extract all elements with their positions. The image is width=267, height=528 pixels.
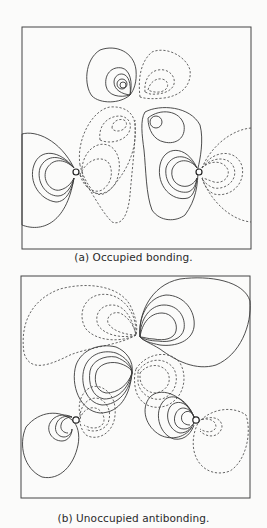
- positive-contours-top: [87, 48, 136, 102]
- negative-contours-top: [139, 50, 190, 98]
- positive-contours-top-right: [140, 278, 250, 367]
- panel-a: (a) Occupied bonding.: [0, 0, 267, 265]
- contours-bottom-right-atom: [145, 392, 248, 473]
- negative-contours-middle-left: [78, 107, 135, 223]
- nucleus-right: [196, 169, 202, 175]
- contour-plot-b: [0, 265, 267, 528]
- panel-b: (b) Unoccupied antibonding.: [0, 265, 267, 528]
- positive-contours-center: [74, 346, 132, 413]
- plot-frame: [22, 27, 251, 249]
- caption-b: (b) Unoccupied antibonding.: [0, 512, 267, 524]
- nucleus-right: [193, 417, 199, 423]
- negative-contours-right-atom: [202, 128, 251, 222]
- negative-contours-center-right: [135, 354, 185, 407]
- positive-contours-right-atom: [142, 108, 202, 220]
- negative-contours-top-left: [23, 286, 137, 366]
- contour-plot-a: [0, 0, 267, 265]
- positive-contours-left-atom: [22, 133, 74, 227]
- nucleus-left: [73, 169, 79, 175]
- nucleus-left: [73, 417, 79, 423]
- contours-bottom-left-atom: [23, 386, 116, 477]
- caption-a: (a) Occupied bonding.: [0, 251, 267, 263]
